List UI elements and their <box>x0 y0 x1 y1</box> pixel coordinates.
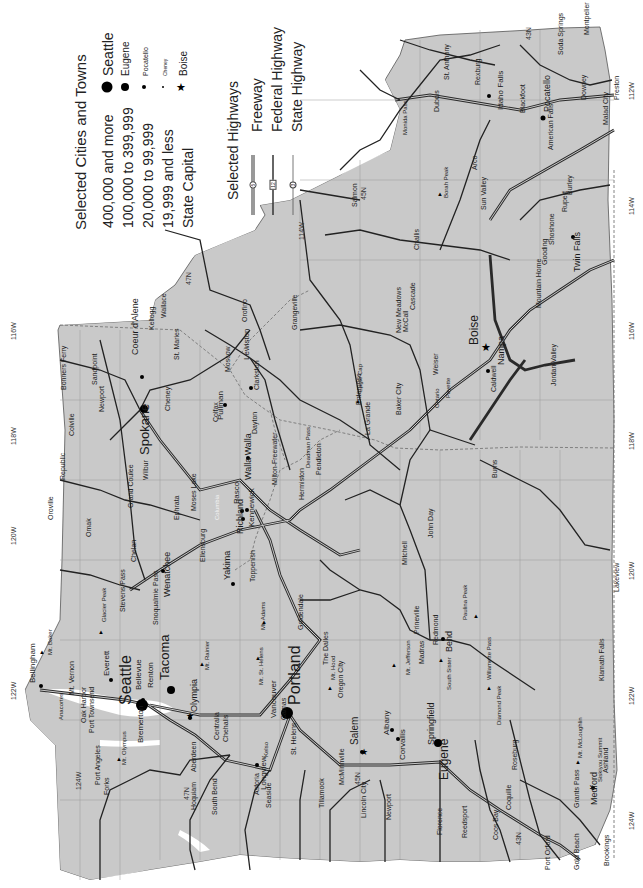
town-label: Florence <box>436 808 443 835</box>
city-dot-everett[interactable] <box>109 678 113 682</box>
city-label[interactable]: Bremerton <box>137 706 145 743</box>
town-label: Clarkston <box>253 360 260 390</box>
town-label: St. Helens <box>290 723 297 755</box>
city-label[interactable]: Corvallis <box>399 729 407 760</box>
town-label: Bonners Ferry <box>60 346 67 390</box>
town-label: Soda Springs <box>557 13 564 55</box>
city-dot-idaho-falls[interactable] <box>487 94 491 98</box>
longitude-label: 120W <box>628 562 635 580</box>
legend-highway-label: Federal Highway <box>270 27 284 132</box>
city-label[interactable]: Portland <box>287 645 303 705</box>
hood-canal <box>100 740 160 747</box>
legend-highways-title: Selected Highways <box>226 81 240 200</box>
town-label: Hermiston <box>298 468 305 500</box>
city-label[interactable]: Pasco <box>233 482 241 504</box>
city-label[interactable]: Bellingham <box>29 643 37 683</box>
latitude-label: 43N <box>515 832 522 845</box>
town-label: Siskiyou Summit <box>597 738 603 782</box>
town-label: Milton-Freewater <box>271 432 278 485</box>
town-label: Grants Pass <box>573 769 580 808</box>
city-dot-tacoma[interactable] <box>167 686 175 694</box>
town-label: Newport <box>385 794 392 820</box>
town-label: Burns <box>491 460 498 478</box>
longitude-label: 114W <box>628 197 635 215</box>
town-label: Oak Harbor <box>80 687 87 723</box>
town-label: Payette <box>445 378 451 398</box>
city-label[interactable]: Everett <box>103 651 111 676</box>
city-label[interactable]: Twin Falls <box>573 232 582 272</box>
city-label[interactable]: Tacoma <box>158 634 171 680</box>
legend-class-range: 100,000 to 399,999 <box>121 107 135 228</box>
city-dot-coeur-dalene[interactable] <box>140 375 144 379</box>
town-label: Brookings <box>603 835 610 866</box>
town-label: Astoria <box>253 773 260 795</box>
city-label[interactable]: Seattle <box>118 655 134 705</box>
city-dot-bellingham[interactable] <box>39 684 43 688</box>
peak-icon: ▲ <box>438 657 444 663</box>
city-label[interactable]: Nampa <box>497 336 506 365</box>
city-dot-yakima[interactable] <box>231 582 235 586</box>
town-label: Oregon City <box>337 661 344 698</box>
city-label[interactable]: Idaho Falls <box>497 71 505 110</box>
legend-highway-label: State Highway <box>290 42 304 132</box>
legend-class-example: Boise <box>179 51 189 76</box>
city-dot-bremerton[interactable] <box>141 698 145 702</box>
town-label: Borah Peak <box>443 167 449 198</box>
town-label: Stevens Pass <box>119 569 126 612</box>
city-label[interactable]: Kennewick <box>248 488 256 527</box>
town-label: Colville <box>68 413 75 436</box>
town-label: Arco <box>471 156 478 170</box>
town-label: Klamath Falls <box>598 639 605 681</box>
town-label: Paulina Peak <box>462 585 468 620</box>
town-label: Aberdeen <box>190 742 197 772</box>
city-label[interactable]: Bend <box>445 631 454 652</box>
town-label: Mountain Home <box>535 259 542 308</box>
capital-star-olympia-icon[interactable]: ★ <box>186 712 194 721</box>
town-label: Coos Bay <box>492 810 499 840</box>
longitude-label: 124W <box>75 772 82 790</box>
city-label[interactable]: Renton <box>147 662 155 688</box>
town-label: Snoqualmie Pass <box>152 571 159 625</box>
longitude-label: 124W <box>628 812 635 830</box>
city-label[interactable]: Walla Walla <box>244 433 253 480</box>
city-label[interactable]: Springfield <box>427 702 436 745</box>
town-label: Ashland <box>602 748 609 773</box>
city-label[interactable]: Lewiston <box>243 328 251 360</box>
legend-small-dot-icon <box>142 85 146 89</box>
city-dot-pocatello[interactable] <box>541 116 546 121</box>
town-label: Willamette Pass <box>486 637 492 680</box>
city-label[interactable]: Richland <box>236 499 245 534</box>
city-label[interactable]: Boise <box>468 315 480 345</box>
legend-star-icon: ★ <box>176 82 186 93</box>
town-label: Kelso <box>263 742 269 757</box>
town-label: Gold Beach <box>573 833 580 870</box>
capital-star-salem-icon[interactable]: ★ <box>360 748 368 757</box>
town-label: Port Orford <box>544 835 551 870</box>
water-label: Columbia <box>214 495 220 520</box>
city-label[interactable]: Salem <box>350 717 360 745</box>
city-label[interactable]: Vancouver <box>270 680 278 718</box>
legend-class-range: 19,999 and less <box>161 129 175 228</box>
city-label[interactable]: Yakima <box>223 551 232 580</box>
town-label: Mt. Olympus <box>121 731 127 765</box>
capital-star-boise-icon[interactable]: ★ <box>481 342 491 353</box>
town-label: Cheney <box>164 387 171 411</box>
city-label[interactable]: Caldwell <box>490 366 497 392</box>
town-label: Salmon <box>351 183 358 207</box>
town-label: Goldendale <box>297 594 304 630</box>
city-label[interactable]: Spokane <box>138 404 151 455</box>
town-label: Chelan <box>130 540 137 562</box>
latitude-label: 47N <box>183 787 190 800</box>
city-label[interactable]: Coeur d'Alene <box>131 298 140 355</box>
town-label: Mt. Hood <box>330 656 336 680</box>
city-label[interactable]: Wenatchee <box>163 552 172 597</box>
city-label[interactable]: Albany <box>383 711 391 735</box>
longitude-label: 118W <box>628 432 635 450</box>
city-label[interactable]: Bellevue <box>135 659 143 690</box>
city-label[interactable]: Olympia <box>190 679 199 712</box>
town-label: The Dalles <box>322 632 329 665</box>
city-label[interactable]: Eugene <box>438 739 450 780</box>
town-label: Newport <box>98 386 105 412</box>
town-label: Preston <box>613 76 620 100</box>
town-label: Cascade <box>409 282 416 310</box>
